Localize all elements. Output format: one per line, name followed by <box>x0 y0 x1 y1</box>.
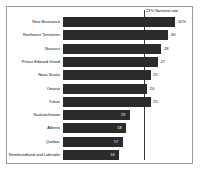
bar-value-label: 24 <box>150 86 155 91</box>
bar-value-label: 30 <box>171 33 176 38</box>
category-label: Yukon <box>6 100 60 105</box>
category-label: Prince Edward Island <box>6 60 60 65</box>
bar-value-label: 25 <box>153 100 158 105</box>
bar-row: Ontario 24 <box>7 84 192 94</box>
bar-row: New Brunswick 32% <box>7 17 192 27</box>
bar <box>63 84 147 94</box>
category-label: Ontario <box>6 86 60 91</box>
bar-row: Quebec 17 <box>7 137 192 147</box>
bar <box>63 57 158 67</box>
chart-frame: 23% National rate New Brunswick 32% Nort… <box>6 6 193 164</box>
category-label: New Brunswick <box>6 20 60 25</box>
bar-row: Nova Scotia 25 <box>7 70 192 80</box>
bar-row: Alberta 18 <box>7 123 192 133</box>
category-label: Nova Scotia <box>6 73 60 78</box>
bar-row: Yukon 25 <box>7 97 192 107</box>
category-label: Nunavut <box>6 46 60 51</box>
bar-value-label: 25 <box>153 73 158 78</box>
bar-row: Newfoundland and Labrador 16 <box>7 150 192 160</box>
bar <box>63 44 161 54</box>
bar-value-label: 32% <box>178 20 186 25</box>
bar-value-label: 19 <box>121 113 126 118</box>
national-rate-reference-label: 23% National rate <box>146 8 179 13</box>
bar-row: Prince Edward Island 27 <box>7 57 192 67</box>
bar <box>63 110 130 120</box>
category-label: Newfoundland and Labrador <box>6 153 60 158</box>
category-label: Saskatchewan <box>6 113 60 118</box>
bar <box>63 70 151 80</box>
bar <box>63 97 151 107</box>
bar-value-label: 28 <box>164 46 169 51</box>
bar <box>63 30 168 40</box>
bar-value-label: 17 <box>114 139 119 144</box>
category-label: Quebec <box>6 139 60 144</box>
bar-row: Northwest Territories 30 <box>7 30 192 40</box>
category-label: Northwest Territories <box>6 33 60 38</box>
bar-value-label: 16 <box>110 153 115 158</box>
bar-chart-plot-area: 23% National rate New Brunswick 32% Nort… <box>7 7 192 163</box>
bar-row: Nunavut 28 <box>7 44 192 54</box>
bar-row: Saskatchewan 19 <box>7 110 192 120</box>
bar-value-label: 27 <box>160 60 165 65</box>
category-label: Alberta <box>6 126 60 131</box>
bar-value-label: 18 <box>117 126 122 131</box>
bar <box>63 17 175 27</box>
